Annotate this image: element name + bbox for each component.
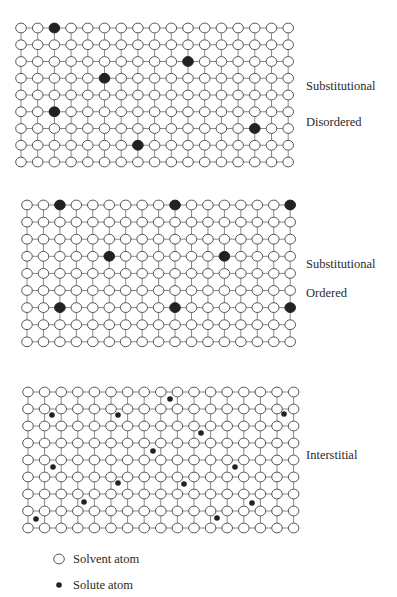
solvent-atom bbox=[216, 57, 227, 67]
solvent-atom bbox=[172, 489, 183, 499]
solvent-atom bbox=[283, 124, 294, 134]
interstitial-solute-atom bbox=[150, 448, 156, 454]
solvent-atom bbox=[189, 523, 200, 533]
solvent-atom bbox=[233, 90, 244, 100]
solute-atom bbox=[183, 57, 194, 67]
solvent-atom bbox=[203, 234, 214, 244]
solvent-atom bbox=[156, 523, 167, 533]
solvent-atom bbox=[49, 57, 60, 67]
panel3-label-interstitial: Interstitial bbox=[306, 449, 357, 462]
solvent-atom bbox=[55, 234, 66, 244]
solvent-atom bbox=[236, 269, 247, 279]
solvent-atom bbox=[149, 90, 160, 100]
solute-atom bbox=[285, 303, 296, 313]
solvent-atom bbox=[255, 472, 266, 482]
solvent-atom bbox=[89, 387, 100, 397]
solvent-atom bbox=[189, 438, 200, 448]
solvent-atom bbox=[236, 217, 247, 227]
solvent-atom bbox=[39, 421, 50, 431]
solvent-atom bbox=[153, 286, 164, 296]
solvent-atom bbox=[183, 124, 194, 134]
solvent-atom bbox=[266, 23, 277, 33]
solvent-atom bbox=[285, 234, 296, 244]
solvent-atom bbox=[233, 124, 244, 134]
solvent-atom bbox=[285, 320, 296, 330]
solvent-atom bbox=[186, 200, 197, 210]
solvent-atom bbox=[106, 421, 117, 431]
solvent-atom bbox=[153, 200, 164, 210]
solvent-atom bbox=[38, 269, 49, 279]
interstitial-solute-atom bbox=[33, 516, 39, 522]
solvent-atom bbox=[133, 40, 144, 50]
solvent-atom bbox=[189, 421, 200, 431]
solvent-atom bbox=[38, 200, 49, 210]
solvent-atom bbox=[133, 157, 144, 167]
solvent-atom bbox=[183, 23, 194, 33]
solvent-atom bbox=[186, 286, 197, 296]
solute-atom bbox=[104, 251, 115, 261]
solvent-atom bbox=[266, 90, 277, 100]
solvent-atom bbox=[233, 157, 244, 167]
solvent-atom bbox=[186, 269, 197, 279]
solvent-atom bbox=[288, 438, 299, 448]
solvent-atom bbox=[149, 40, 160, 50]
solvent-atom bbox=[166, 124, 177, 134]
solvent-atom bbox=[88, 251, 99, 261]
solvent-atom bbox=[285, 217, 296, 227]
solute-atom bbox=[170, 303, 181, 313]
solvent-atom bbox=[203, 337, 214, 347]
solvent-atom bbox=[172, 421, 183, 431]
solvent-atom bbox=[120, 303, 131, 313]
solvent-atom bbox=[139, 421, 150, 431]
solvent-atom bbox=[104, 269, 115, 279]
solvent-atom bbox=[288, 421, 299, 431]
solvent-atom bbox=[39, 489, 50, 499]
solvent-atom bbox=[83, 124, 94, 134]
solvent-atom bbox=[250, 157, 261, 167]
solvent-atom bbox=[255, 438, 266, 448]
solvent-atom bbox=[255, 421, 266, 431]
solvent-atom bbox=[66, 57, 77, 67]
solvent-atom bbox=[236, 286, 247, 296]
solvent-atom bbox=[23, 387, 34, 397]
solvent-atom bbox=[88, 269, 99, 279]
solvent-atom bbox=[56, 421, 67, 431]
solvent-atom bbox=[170, 234, 181, 244]
solvent-atom bbox=[23, 489, 34, 499]
solvent-atom bbox=[239, 387, 250, 397]
solvent-atom bbox=[139, 404, 150, 414]
solvent-atom bbox=[120, 337, 131, 347]
solvent-atom bbox=[156, 404, 167, 414]
solvent-atom bbox=[73, 523, 84, 533]
solvent-atom bbox=[222, 404, 233, 414]
solvent-atom bbox=[236, 251, 247, 261]
solvent-atom bbox=[32, 157, 43, 167]
solvent-atom bbox=[170, 269, 181, 279]
solvent-atom bbox=[122, 455, 133, 465]
panel2-label-ordered: Ordered bbox=[306, 287, 347, 300]
solvent-atom bbox=[88, 286, 99, 296]
solvent-atom bbox=[199, 107, 210, 117]
solvent-atom bbox=[39, 455, 50, 465]
solvent-atom bbox=[233, 40, 244, 50]
solvent-atom bbox=[252, 303, 263, 313]
solvent-atom bbox=[288, 506, 299, 516]
solvent-atom bbox=[83, 73, 94, 83]
solvent-atom bbox=[88, 337, 99, 347]
solvent-atom bbox=[219, 320, 230, 330]
legend-solute-label: Solute atom bbox=[73, 579, 133, 592]
solvent-atom bbox=[285, 337, 296, 347]
solvent-atom bbox=[252, 217, 263, 227]
solvent-atom bbox=[288, 523, 299, 533]
solvent-atom bbox=[106, 523, 117, 533]
solvent-atom bbox=[106, 404, 117, 414]
solvent-atom bbox=[73, 387, 84, 397]
solvent-atom bbox=[170, 217, 181, 227]
solvent-atom bbox=[66, 124, 77, 134]
solvent-atom bbox=[104, 234, 115, 244]
solvent-atom bbox=[239, 472, 250, 482]
solvent-atom bbox=[233, 140, 244, 150]
solvent-atom bbox=[239, 523, 250, 533]
solvent-atom bbox=[38, 217, 49, 227]
solvent-atom bbox=[170, 337, 181, 347]
